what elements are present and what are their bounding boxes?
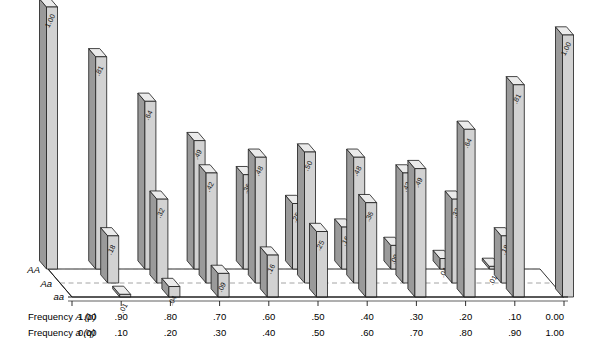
- bar-side-face: [89, 49, 96, 269]
- bar-side-face: [494, 228, 501, 283]
- x-tick-label-r1-0: 0.00: [78, 327, 97, 338]
- x-tick-label-r1-1: .10: [115, 327, 128, 338]
- x-tick-label-r0-9: .10: [508, 311, 521, 322]
- x-tick-label-r0-1: .90: [115, 311, 128, 322]
- x-tick-label-r1-5: .50: [311, 327, 324, 338]
- bar-front-face: [47, 7, 58, 269]
- x-tick-label-r0-5: .50: [311, 311, 324, 322]
- bar-side-face: [101, 228, 108, 283]
- bar-side-face: [286, 195, 293, 269]
- bar-Aa-2: [150, 191, 168, 283]
- x-tick-label-r1-3: .30: [213, 327, 226, 338]
- depth-axis-label-aa: aa: [53, 291, 64, 302]
- bar-side-face: [359, 194, 366, 297]
- bar-side-face: [445, 191, 452, 283]
- bar-front-face: [563, 35, 574, 297]
- bar-aa-6: [359, 194, 377, 297]
- bar-side-face: [396, 165, 403, 283]
- x-tick-label-r0-2: .80: [164, 311, 177, 322]
- bar-side-face: [199, 165, 206, 283]
- hardy-weinberg-chart: AAAaaa.01.04.09.16.25.36.49.64.811.00.18…: [0, 0, 589, 351]
- bar-side-face: [236, 166, 243, 269]
- x-tick-label-r1-8: .80: [459, 327, 472, 338]
- x-tick-label-r0-6: .40: [361, 311, 374, 322]
- bar-AA-0: [40, 0, 58, 269]
- bar-side-face: [310, 223, 317, 297]
- depth-axis-label-Aa: Aa: [39, 278, 52, 289]
- bar-front-face: [267, 255, 278, 297]
- bar-side-face: [40, 0, 47, 269]
- x-tick-label-r1-6: .60: [361, 327, 374, 338]
- bar-aa-10: [556, 27, 574, 297]
- bar-front-face: [464, 129, 475, 297]
- x-tick-label-r0-4: .60: [262, 311, 275, 322]
- bar-side-face: [556, 27, 563, 297]
- bar-aa-9: [506, 77, 524, 297]
- x-tick-label-r0-0: 1.00: [78, 311, 97, 322]
- bar-side-face: [150, 191, 157, 283]
- bar-front-face: [513, 85, 524, 297]
- x-tick-label-r0-8: .20: [459, 311, 472, 322]
- x-tick-label-r1-9: .90: [508, 327, 521, 338]
- x-tick-label-r0-10: 0.00: [546, 311, 565, 322]
- x-tick-label-r1-7: .70: [410, 327, 423, 338]
- figure-root: AAAaaa.01.04.09.16.25.36.49.64.811.00.18…: [0, 0, 589, 351]
- bar-side-face: [506, 77, 513, 297]
- depth-axis-label-AA: AA: [26, 264, 40, 275]
- x-tick-label-r1-2: .20: [164, 327, 177, 338]
- x-tick-label-r0-3: .70: [213, 311, 226, 322]
- x-tick-label-r1-10: 1.00: [546, 327, 565, 338]
- bar-aa-5: [310, 223, 328, 297]
- x-tick-label-r1-4: .40: [262, 327, 275, 338]
- x-tick-label-r0-7: .30: [410, 311, 423, 322]
- bar-front-face: [108, 236, 119, 283]
